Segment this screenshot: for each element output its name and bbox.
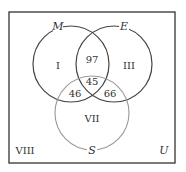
universe-label: U — [159, 144, 169, 157]
region-vii-label: VII — [83, 113, 99, 124]
set-m-label: M — [51, 20, 64, 33]
region-viii-label: VIII — [14, 145, 34, 156]
set-e-label: E — [119, 20, 128, 33]
region-i-label: I — [56, 60, 60, 71]
region-e-and-s-value: 66 — [104, 88, 117, 99]
region-m-and-e-value: 97 — [86, 54, 99, 65]
venn-diagram: M E S U I 97 III 46 45 66 VII VIII — [0, 0, 186, 172]
set-s-label: S — [88, 144, 96, 157]
universe-frame — [9, 12, 175, 163]
region-iii-label: III — [123, 60, 135, 71]
region-all-three-value: 45 — [86, 76, 99, 87]
region-m-and-s-value: 46 — [69, 88, 82, 99]
